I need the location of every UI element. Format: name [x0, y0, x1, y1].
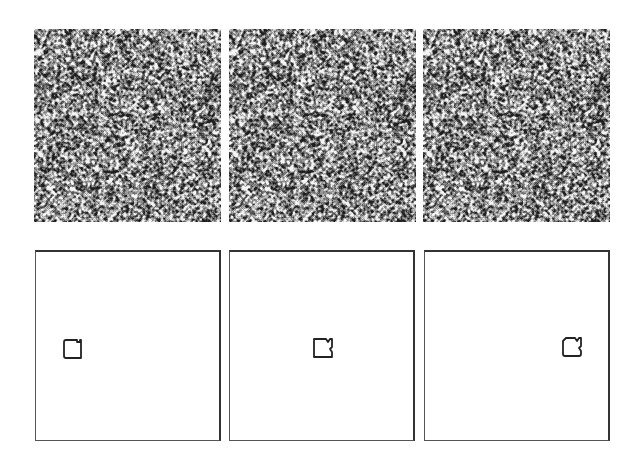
target-frame-left	[35, 250, 221, 441]
noise-stimulus-panel-1	[34, 29, 221, 222]
stimulus-figure	[0, 0, 638, 461]
target-frame-center	[229, 250, 415, 441]
noise-stimulus-panel-3	[423, 29, 610, 222]
target-frame-right	[424, 250, 610, 441]
noise-texture	[423, 29, 610, 222]
noise-stimulus-panel-2	[229, 29, 416, 222]
noise-texture	[229, 29, 416, 222]
noise-texture	[34, 29, 221, 222]
target-shape-icon	[561, 336, 583, 358]
target-shape-icon	[312, 337, 334, 359]
target-shape-icon	[62, 338, 84, 360]
